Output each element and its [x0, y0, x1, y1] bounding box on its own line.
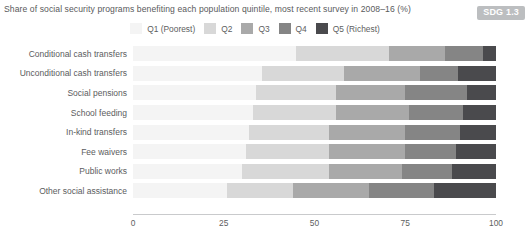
x-axis-tick-label: 25 [219, 218, 228, 228]
bar-segment[interactable] [133, 105, 253, 120]
chart-plot-area: Conditional cash transfersUnconditional … [0, 44, 530, 214]
bar-segment[interactable] [420, 66, 458, 81]
legend-swatch-icon [130, 23, 142, 34]
bar-segment[interactable] [227, 183, 292, 198]
bar-segment[interactable] [329, 125, 405, 140]
bar-segment[interactable] [133, 46, 296, 61]
bar-segment[interactable] [246, 144, 329, 159]
bar-segment[interactable] [452, 164, 496, 179]
legend-swatch-icon [279, 23, 291, 34]
category-label: Other social assistance [0, 186, 133, 196]
legend-item[interactable]: Q3 [241, 23, 269, 34]
bar-segment[interactable] [242, 164, 329, 179]
chart-row: Other social assistance [0, 181, 530, 201]
category-label: Unconditional cash transfers [0, 68, 133, 78]
x-axis-tick-label: 100 [489, 218, 503, 228]
stacked-bar[interactable] [133, 85, 496, 100]
chart-row: Social pensions [0, 83, 530, 103]
x-axis-tick-label: 50 [310, 218, 319, 228]
legend-label: Q5 (Richest) [333, 24, 380, 34]
bar-segment[interactable] [458, 66, 496, 81]
bar-segment[interactable] [133, 85, 256, 100]
stacked-bar[interactable] [133, 46, 496, 61]
bar-segment[interactable] [133, 66, 262, 81]
stacked-bar[interactable] [133, 105, 496, 120]
bar-segment[interactable] [329, 164, 402, 179]
category-label: In-kind transfers [0, 127, 133, 137]
x-axis-tick-label: 75 [401, 218, 410, 228]
x-axis: 0255075100 [133, 214, 500, 238]
bar-segment[interactable] [463, 105, 496, 120]
legend-label: Q1 (Poorest) [147, 24, 195, 34]
category-label: Fee waivers [0, 147, 133, 157]
bar-segment[interactable] [249, 125, 329, 140]
legend-label: Q4 [296, 24, 307, 34]
chart-row: School feeding [0, 103, 530, 123]
legend-swatch-icon [204, 23, 216, 34]
legend-item[interactable]: Q1 (Poorest) [130, 23, 195, 34]
category-label: Social pensions [0, 88, 133, 98]
legend-item[interactable]: Q2 [204, 23, 232, 34]
chart-row: In-kind transfers [0, 122, 530, 142]
chart-title: Share of social security programs benefi… [4, 4, 411, 14]
legend-label: Q3 [258, 24, 269, 34]
bar-segment[interactable] [405, 125, 459, 140]
x-axis-line [133, 214, 496, 215]
stacked-bar[interactable] [133, 183, 496, 198]
bar-segment[interactable] [402, 164, 453, 179]
bar-segment[interactable] [405, 85, 467, 100]
bar-segment[interactable] [445, 46, 483, 61]
legend-item[interactable]: Q5 (Richest) [316, 23, 380, 34]
bar-segment[interactable] [133, 164, 242, 179]
bar-segment[interactable] [344, 66, 420, 81]
category-label: Conditional cash transfers [0, 49, 133, 59]
bar-segment[interactable] [133, 125, 249, 140]
bar-segment[interactable] [483, 46, 496, 61]
legend-swatch-icon [241, 23, 253, 34]
bar-segment[interactable] [434, 183, 496, 198]
bar-segment[interactable] [253, 105, 336, 120]
bar-segment[interactable] [296, 46, 389, 61]
bar-segment[interactable] [405, 144, 456, 159]
bar-segment[interactable] [329, 144, 405, 159]
bar-segment[interactable] [293, 183, 369, 198]
bar-segment[interactable] [389, 46, 445, 61]
bar-segment[interactable] [133, 183, 227, 198]
stacked-bar[interactable] [133, 164, 496, 179]
bar-segment[interactable] [460, 125, 496, 140]
bar-segment[interactable] [256, 85, 336, 100]
stacked-bar[interactable] [133, 125, 496, 140]
legend-item[interactable]: Q4 [279, 23, 307, 34]
bar-segment[interactable] [336, 105, 409, 120]
sdg-badge: SDG 1.3 [477, 6, 525, 20]
legend-label: Q2 [221, 24, 232, 34]
chart-legend: Q1 (Poorest)Q2Q3Q4Q5 (Richest) [0, 23, 510, 34]
category-label: School feeding [0, 108, 133, 118]
x-axis-tick-label: 0 [131, 218, 136, 228]
bar-segment[interactable] [262, 66, 344, 81]
bar-segment[interactable] [369, 183, 434, 198]
legend-swatch-icon [316, 23, 328, 34]
bar-segment[interactable] [456, 144, 496, 159]
stacked-bar[interactable] [133, 66, 496, 81]
bar-segment[interactable] [133, 144, 246, 159]
chart-row: Unconditional cash transfers [0, 64, 530, 84]
category-label: Public works [0, 166, 133, 176]
stacked-bar[interactable] [133, 144, 496, 159]
chart-row: Fee waivers [0, 142, 530, 162]
chart-row: Conditional cash transfers [0, 44, 530, 64]
bar-segment[interactable] [336, 85, 405, 100]
bar-segment[interactable] [409, 105, 463, 120]
bar-segment[interactable] [467, 85, 496, 100]
chart-row: Public works [0, 162, 530, 182]
